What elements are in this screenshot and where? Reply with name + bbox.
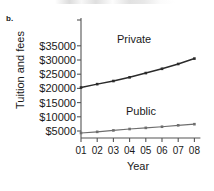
data-point-private: [145, 72, 148, 75]
data-point-public: [145, 127, 148, 130]
data-point-private: [80, 86, 83, 89]
x-axis-tick-label: 04: [122, 145, 138, 156]
data-point-public: [161, 125, 164, 128]
x-axis-tick-label: 07: [170, 145, 186, 156]
data-point-public: [193, 123, 196, 126]
figure-panel: b. Tuition and fees $35000$30000$25000$2…: [0, 0, 214, 191]
series-label-public: Public: [126, 105, 156, 117]
x-axis-tick-label: 05: [138, 145, 154, 156]
x-axis-tick-label: 02: [89, 145, 105, 156]
data-point-public: [112, 129, 115, 132]
data-point-private: [96, 83, 99, 86]
x-axis-tick-labels: 0102030405060708: [70, 145, 206, 158]
data-point-private: [161, 68, 164, 71]
data-point-private: [128, 76, 131, 79]
data-point-public: [96, 131, 99, 134]
series-label-private: Private: [117, 33, 151, 45]
data-point-public: [128, 128, 131, 131]
data-point-private: [177, 63, 180, 66]
data-point-public: [80, 132, 83, 135]
x-axis-tick-label: 06: [154, 145, 170, 156]
x-axis-tick-label: 03: [105, 145, 121, 156]
x-axis-title: Year: [81, 160, 195, 172]
data-point-private: [193, 57, 196, 60]
x-axis-tick-label: 08: [186, 145, 202, 156]
data-point-public: [177, 124, 180, 127]
x-axis-tick-label: 01: [73, 145, 89, 156]
data-point-private: [112, 80, 115, 83]
